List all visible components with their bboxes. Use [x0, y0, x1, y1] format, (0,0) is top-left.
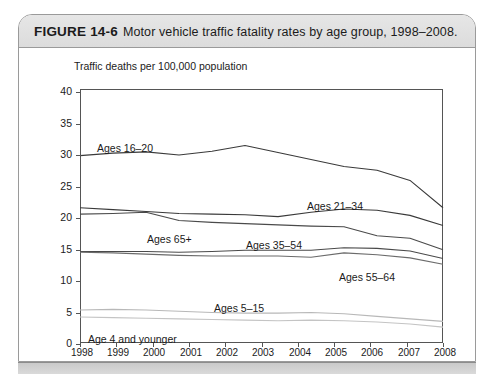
- x-tick-mark: [189, 343, 190, 347]
- y-tick-mark: [76, 313, 81, 314]
- x-tick-mark: [443, 343, 444, 347]
- y-tick-label: 25: [46, 180, 72, 192]
- y-tick-mark: [76, 92, 81, 93]
- y-tick-mark: [76, 281, 81, 282]
- series-line: [80, 317, 443, 327]
- x-tick-mark: [80, 343, 81, 347]
- x-tick-label: 2001: [171, 347, 211, 358]
- figure-footer-bar: [18, 362, 476, 374]
- series-group: [80, 146, 443, 328]
- series-inline-label: Ages 21–34: [307, 200, 363, 212]
- y-tick-label: 30: [46, 148, 72, 160]
- x-tick-mark: [262, 343, 263, 347]
- y-tick-label: 5: [46, 306, 72, 318]
- y-tick-mark: [76, 218, 81, 219]
- series-line: [80, 146, 443, 208]
- series-line: [80, 208, 443, 226]
- series-inline-label: Ages 35–54: [246, 239, 302, 251]
- figure-caption-line: FIGURE 14-6Motor vehicle traffic fatalit…: [19, 24, 458, 39]
- figure-header: FIGURE 14-6Motor vehicle traffic fatalit…: [19, 15, 475, 48]
- x-tick-label: 2002: [207, 347, 247, 358]
- y-tick-label: 15: [46, 243, 72, 255]
- series-line: [80, 252, 443, 264]
- series-inline-label: Ages 65+: [147, 233, 192, 245]
- x-tick-label: 2003: [243, 347, 283, 358]
- y-axis-title: Traffic deaths per 100,000 population: [74, 60, 247, 72]
- series-inline-label: Ages 16–20: [97, 142, 153, 154]
- x-tick-label: 2004: [280, 347, 320, 358]
- series-inline-label: Ages 55–64: [339, 271, 395, 283]
- y-tick-mark: [76, 187, 81, 188]
- figure-frame: FIGURE 14-6Motor vehicle traffic fatalit…: [18, 14, 476, 362]
- figure-container: FIGURE 14-6Motor vehicle traffic fatalit…: [18, 14, 476, 362]
- y-tick-label: 20: [46, 211, 72, 223]
- x-tick-label: 1999: [98, 347, 138, 358]
- y-tick-label: 40: [46, 85, 72, 97]
- figure-caption: Motor vehicle traffic fatality rates by …: [123, 25, 458, 39]
- x-tick-mark: [225, 343, 226, 347]
- series-inline-label: Age 4 and younger: [88, 333, 177, 345]
- x-tick-label: 2008: [425, 347, 465, 358]
- y-tick-label: 35: [46, 117, 72, 129]
- y-tick-mark: [76, 155, 81, 156]
- x-tick-label: 1998: [62, 347, 102, 358]
- series-inline-label: Ages 5–15: [214, 302, 264, 314]
- x-tick-label: 2006: [352, 347, 392, 358]
- x-tick-label: 2000: [134, 347, 174, 358]
- plot-region: Traffic deaths per 100,000 population 40…: [19, 48, 475, 362]
- x-tick-label: 2007: [389, 347, 429, 358]
- x-tick-label: 2005: [316, 347, 356, 358]
- y-tick-mark: [76, 250, 81, 251]
- figure-number: FIGURE 14-6: [34, 24, 118, 39]
- x-tick-mark: [334, 343, 335, 347]
- x-tick-mark: [298, 343, 299, 347]
- y-tick-mark: [76, 124, 81, 125]
- y-tick-label: 10: [46, 274, 72, 286]
- x-tick-mark: [407, 343, 408, 347]
- x-tick-mark: [370, 343, 371, 347]
